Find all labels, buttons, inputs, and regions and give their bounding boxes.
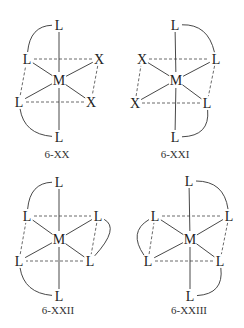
metal-atom: M bbox=[53, 73, 66, 88]
ligand-x-atom: X bbox=[130, 96, 140, 111]
chelate-arc bbox=[28, 25, 52, 52]
ligand-l-atom: L bbox=[23, 209, 32, 224]
ligand-x-atom: X bbox=[86, 95, 96, 110]
metal-atom: M bbox=[170, 73, 183, 88]
ligand-l-atom: L bbox=[86, 254, 95, 269]
metal-ligand-bond bbox=[182, 85, 201, 99]
metal-ligand-bond bbox=[66, 244, 85, 257]
metal-ligand-bond bbox=[197, 220, 223, 235]
ligand-l-atom: L bbox=[55, 175, 64, 190]
isomer-diagram-6-xxiii: MLLLLLL6-XXIII bbox=[137, 174, 233, 316]
metal-ligand-bond bbox=[66, 62, 93, 76]
ligand-l-atom: L bbox=[151, 209, 160, 224]
metal-ligand-bond bbox=[189, 188, 190, 231]
isomer-caption: 6-XXI bbox=[161, 148, 190, 160]
ligand-l-atom: L bbox=[225, 209, 234, 224]
octahedral-isomer-figure: MLLXLXL6-XX MLXLXLL6-XXI MLLLLLL6-XXII M… bbox=[0, 0, 244, 328]
chelate-arc bbox=[28, 182, 52, 209]
equatorial-plane-edge bbox=[20, 223, 26, 254]
chelate-arc bbox=[182, 110, 208, 137]
ligand-l-atom: L bbox=[186, 289, 195, 304]
ligand-l-atom: L bbox=[55, 18, 64, 33]
metal-ligand-bond bbox=[33, 63, 52, 76]
ligand-l-atom: L bbox=[216, 254, 225, 269]
ligand-l-atom: L bbox=[212, 52, 221, 67]
equatorial-plane-edge bbox=[20, 66, 25, 95]
metal-ligand-bond bbox=[66, 85, 86, 99]
equatorial-plane-edge bbox=[221, 223, 227, 254]
ligand-l-atom: L bbox=[171, 130, 180, 145]
isomer-caption: 6-XXII bbox=[42, 304, 75, 316]
isomer-diagram-6-xxi: MLXLXLL6-XXI bbox=[130, 18, 220, 160]
metal-ligand-bond bbox=[196, 244, 214, 257]
chelate-arc bbox=[137, 220, 149, 256]
metal-atom: M bbox=[184, 232, 197, 247]
metal-ligand-bond bbox=[25, 243, 52, 258]
isomer-diagram-6-xx: MLLXLXL6-XX bbox=[15, 18, 104, 160]
metal-ligand-bond bbox=[25, 84, 52, 99]
chelate-arc bbox=[95, 219, 111, 255]
equatorial-plane-edge bbox=[92, 66, 97, 95]
ligand-x-atom: X bbox=[94, 52, 104, 67]
metal-ligand-bond bbox=[154, 243, 183, 258]
ligand-l-atom: L bbox=[23, 52, 32, 67]
isomer-caption: 6-XXIII bbox=[171, 304, 207, 316]
equatorial-plane-edge bbox=[208, 66, 214, 96]
metal-ligand-bond bbox=[66, 220, 92, 235]
metal-atom: M bbox=[53, 232, 66, 247]
ligand-l-atom: L bbox=[144, 254, 153, 269]
ligand-l-atom: L bbox=[203, 96, 212, 111]
ligand-l-atom: L bbox=[55, 130, 64, 145]
metal-ligand-bond bbox=[141, 84, 169, 100]
equatorial-plane-edge bbox=[91, 223, 97, 254]
equatorial-plane-edge bbox=[149, 223, 154, 254]
metal-ligand-bond bbox=[33, 220, 53, 234]
metal-ligand-bond bbox=[183, 62, 210, 76]
metal-ligand-bond bbox=[161, 220, 183, 235]
ligand-l-atom: L bbox=[94, 209, 103, 224]
ligand-l-atom: L bbox=[15, 95, 24, 110]
metal-ligand-bond bbox=[175, 88, 176, 130]
ligand-l-atom: L bbox=[15, 254, 24, 269]
ligand-x-atom: X bbox=[137, 52, 147, 67]
isomer-caption: 6-XX bbox=[44, 148, 69, 160]
ligand-l-atom: L bbox=[185, 174, 194, 189]
metal-ligand-bond bbox=[148, 63, 169, 76]
chelate-arc bbox=[20, 109, 52, 136]
chelate-arc bbox=[196, 181, 228, 209]
isomer-diagram-6-xxii: MLLLLLL6-XXII bbox=[15, 175, 111, 316]
equatorial-plane-edge bbox=[136, 66, 141, 96]
ligand-l-atom: L bbox=[171, 18, 180, 33]
metal-ligand-bond bbox=[175, 32, 176, 72]
chelate-arc bbox=[182, 25, 214, 52]
chelate-arc bbox=[197, 268, 221, 296]
ligand-l-atom: L bbox=[55, 289, 64, 304]
chelate-arc bbox=[20, 268, 52, 295]
